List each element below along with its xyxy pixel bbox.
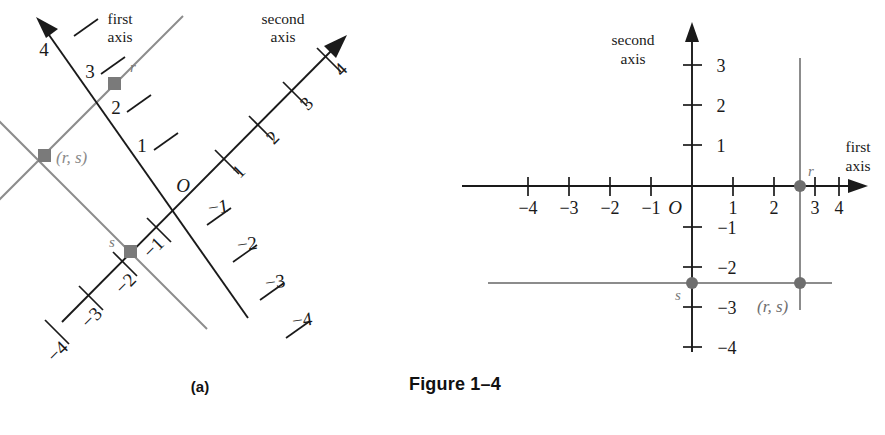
first-axis-arrow-icon <box>36 17 58 38</box>
panel-a-point-r-marker[interactable] <box>108 77 121 90</box>
panel-a-point-s-marker[interactable] <box>124 245 137 258</box>
panel-a-first-tick-label-neg1: −1 <box>207 195 230 219</box>
panel-a-second-tick-label-neg4: −4 <box>43 336 72 365</box>
panel-a-first-axis-label-line1: first <box>108 10 134 27</box>
panel-a-second-axis-label-line1: second <box>261 10 304 27</box>
panel-a-first-tick-label-4: 4 <box>39 39 49 60</box>
panel-a-first-tick-label-3: 3 <box>85 61 95 82</box>
first-axis-b <box>462 177 868 196</box>
panel-a-second-tick-label-3: 3 <box>296 93 318 115</box>
panel-b-x-tick-label-2: 2 <box>770 198 779 218</box>
tick-a-first-1 <box>154 133 178 150</box>
guide-lines-a <box>0 16 207 329</box>
tick-a-first-3 <box>101 57 125 74</box>
panel-a-first-tick-label-neg4: −4 <box>291 308 314 332</box>
panel-b-point-rs-marker[interactable] <box>794 277 806 289</box>
panel-b-plot: second axis first axis −4 −3 −2 −1 1 2 3… <box>440 0 885 370</box>
panel-a-point-rs-label: (r, s) <box>56 148 88 167</box>
panel-b-x-tick-label-neg4: −4 <box>518 198 537 218</box>
second-axis-line <box>62 42 340 322</box>
first-axis-arrow-icon <box>848 179 868 193</box>
panel-a-point-rs-marker[interactable] <box>38 149 51 162</box>
panel-b-x-tick-label-1: 1 <box>729 198 738 218</box>
panel-b-x-tick-label-3: 3 <box>811 198 820 218</box>
panel-b-rectangular-axes: second axis first axis −4 −3 −2 −1 1 2 3… <box>440 0 885 435</box>
panel-a-second-tick-label-neg2: −2 <box>111 269 140 298</box>
second-axis-b <box>683 22 702 352</box>
panel-b-point-r-marker[interactable] <box>794 180 806 192</box>
panel-b-x-tick-label-4: 4 <box>835 198 844 218</box>
panel-a-point-r-label: r <box>130 59 136 75</box>
first-axis-line <box>42 25 248 318</box>
panel-b-point-s-label: s <box>675 287 681 303</box>
figure-1-4: first axis second axis 1 2 3 4 −1 −2 −3 … <box>0 0 885 435</box>
panel-b-second-axis-label-line1: second <box>611 31 654 48</box>
panel-b-point-r-label: r <box>808 163 814 179</box>
panel-b-origin-label: O <box>668 197 682 218</box>
panel-b-x-tick-label-neg2: −2 <box>600 198 619 218</box>
panel-b-x-tick-label-neg3: −3 <box>559 198 578 218</box>
panel-a-second-tick-label-1: 1 <box>228 161 250 183</box>
second-axis-arrow-icon <box>685 22 699 42</box>
guide-line-through-r <box>0 16 183 207</box>
panel-b-y-tick-label-neg2: −2 <box>717 258 736 278</box>
panel-b-first-axis-label-line1: first <box>846 138 872 155</box>
panel-b-y-tick-label-neg4: −4 <box>717 338 736 358</box>
panel-b-y-tick-label-3: 3 <box>717 56 726 76</box>
panel-b-y-tick-label-neg3: −3 <box>717 298 736 318</box>
panel-b-second-axis-label-line2: axis <box>621 50 646 67</box>
panel-a-second-tick-label-2: 2 <box>262 127 284 149</box>
guide-line-through-s <box>0 114 207 329</box>
panel-a-caption: (a) <box>155 378 245 395</box>
panel-b-y-tick-label-1: 1 <box>717 136 726 156</box>
panel-a-first-tick-label-2: 2 <box>111 97 121 118</box>
panel-b-point-s-marker[interactable] <box>686 277 698 289</box>
panel-b-first-axis-label-line2: axis <box>846 157 871 174</box>
panel-a-second-tick-label-4: 4 <box>330 58 352 80</box>
panel-b-y-tick-label-2: 2 <box>717 96 726 116</box>
panel-b-y-tick-label-neg1: −1 <box>717 218 736 238</box>
panel-b-point-rs-label: (r, s) <box>757 297 789 316</box>
tick-a-first-4 <box>74 19 98 36</box>
panel-a-plot: first axis second axis 1 2 3 4 −1 −2 −3 … <box>0 0 440 370</box>
panel-a-oblique-axes: first axis second axis 1 2 3 4 −1 −2 −3 … <box>0 0 440 435</box>
panel-a-point-s-label: s <box>109 234 115 250</box>
tick-a-first-2 <box>127 95 151 112</box>
panel-a-first-axis-label-line2: axis <box>108 28 133 45</box>
panel-a-origin-label: O <box>176 175 190 196</box>
panel-a-second-axis-label-line2: axis <box>271 28 296 45</box>
guide-lines-b <box>488 58 832 310</box>
panel-a-second-tick-label-neg1: −1 <box>139 233 168 262</box>
panel-b-x-tick-label-neg1: −1 <box>641 198 660 218</box>
panel-a-first-tick-label-neg2: −2 <box>236 232 259 256</box>
panel-a-second-tick-label-neg3: −3 <box>77 303 106 332</box>
panel-a-first-tick-label-neg3: −3 <box>264 270 287 294</box>
panel-a-first-tick-label-1: 1 <box>137 135 147 156</box>
figure-caption: Figure 1–4 <box>330 374 580 395</box>
